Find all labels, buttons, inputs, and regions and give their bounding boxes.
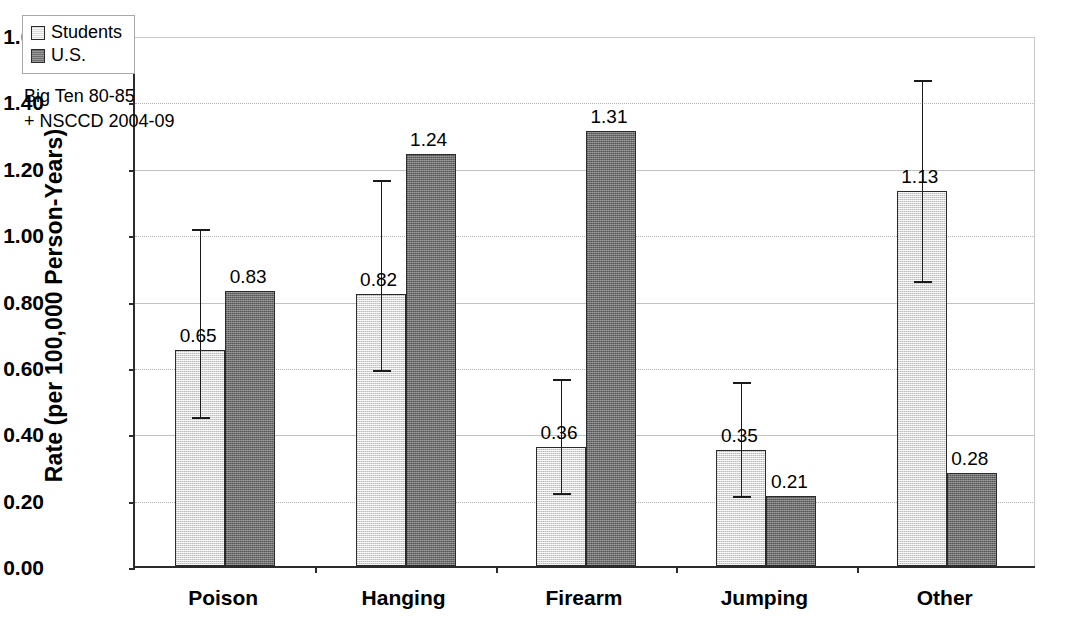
error-bar-cap-bottom (914, 281, 932, 283)
value-label-firearm-us: 1.31 (573, 106, 645, 128)
annotation-line-1: Big Ten 80-85 (24, 84, 175, 109)
value-label-hanging-students: 0.82 (343, 269, 415, 291)
value-label-jumping-students: 0.35 (703, 425, 775, 447)
y-axis-tick-mark (129, 170, 135, 172)
bar-firearm-us (586, 131, 636, 566)
value-label-hanging-us: 1.24 (393, 129, 465, 151)
value-label-firearm-students: 0.36 (523, 422, 595, 444)
error-bar-cap-top (553, 379, 571, 381)
value-label-jumping-us: 0.21 (753, 471, 825, 493)
bar-other-us (947, 473, 997, 566)
y-axis-tick-mark (129, 435, 135, 437)
chart-annotation: Big Ten 80-85 + NSCCD 2004-09 (24, 84, 175, 134)
category-label-firearm: Firearm (484, 586, 684, 610)
error-bar-cap-top (192, 229, 210, 231)
annotation-line-2: + NSCCD 2004-09 (24, 109, 175, 134)
x-axis-tick-mark (857, 566, 859, 573)
value-label-other-us: 0.28 (934, 448, 1006, 470)
y-axis-tick-label: 0.20 (0, 490, 44, 514)
error-bar-cap-bottom (733, 496, 751, 498)
legend-item-us: U.S. (31, 44, 122, 67)
bar-hanging-us (406, 154, 456, 566)
error-bar-cap-bottom (553, 493, 571, 495)
legend-label-students: Students (51, 22, 122, 43)
error-bar-poison (200, 229, 201, 418)
error-bar-cap-bottom (192, 417, 210, 419)
legend-swatch-students-icon (31, 26, 45, 40)
value-label-poison-us: 0.83 (212, 266, 284, 288)
plot-frame-top (135, 37, 1035, 38)
y-axis-tick-label: 0.40 (0, 423, 44, 447)
error-bar-cap-top (914, 80, 932, 82)
plot-frame-right (1034, 37, 1035, 566)
error-bar-cap-top (373, 180, 391, 182)
category-label-jumping: Jumping (664, 586, 864, 610)
category-label-poison: Poison (123, 586, 323, 610)
bar-jumping-us (766, 496, 816, 566)
value-label-poison-students: 0.65 (162, 325, 234, 347)
y-axis-tick-label: 1.20 (0, 158, 44, 182)
x-axis-tick-mark (315, 566, 317, 573)
legend: Students U.S. (22, 15, 135, 74)
y-axis-tick-label: 0.00 (0, 556, 44, 580)
y-axis-tick-mark (129, 502, 135, 504)
error-bar-cap-bottom (373, 370, 391, 372)
legend-swatch-us-icon (31, 49, 45, 63)
x-axis-tick-mark (676, 566, 678, 573)
category-label-other: Other (845, 586, 1045, 610)
y-axis-tick-label: 0.60 (0, 357, 44, 381)
error-bar-cap-top (733, 382, 751, 384)
value-label-other-students: 1.13 (884, 166, 956, 188)
y-axis-tick-mark (129, 236, 135, 238)
y-axis-tick-mark (129, 303, 135, 305)
y-axis-tick-mark (129, 568, 135, 570)
category-label-hanging: Hanging (304, 586, 504, 610)
y-axis-tick-mark (129, 369, 135, 371)
y-axis-tick-label: 1.00 (0, 224, 44, 248)
y-axis-tick-label: 0.80 (0, 291, 44, 315)
legend-item-students: Students (31, 21, 122, 44)
x-axis-tick-mark (496, 566, 498, 573)
bar-chart: Rate (per 100,000 Person-Years) 1.601.40… (0, 0, 1076, 643)
legend-label-us: U.S. (51, 45, 86, 66)
gridline (135, 103, 1035, 104)
